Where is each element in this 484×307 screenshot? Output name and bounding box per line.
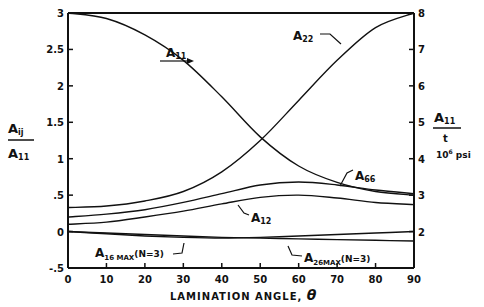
svg-text:106 psi: 106 psi bbox=[436, 148, 471, 160]
left-tick-label: .5 bbox=[53, 190, 64, 201]
lamination-angle-chart: 0102030405060708090 -.50.511.522.53 2345… bbox=[0, 0, 484, 307]
svg-text:A11: A11 bbox=[434, 110, 456, 126]
x-tick-label: 30 bbox=[176, 274, 190, 285]
right-tick-label: 6 bbox=[418, 81, 425, 92]
svg-text:A11: A11 bbox=[166, 46, 187, 61]
x-tick-label: 40 bbox=[215, 274, 229, 285]
left-tick-label: 2 bbox=[57, 81, 64, 92]
plot-frame bbox=[68, 13, 414, 268]
x-tick-label: 70 bbox=[330, 274, 344, 285]
curve-a11 bbox=[68, 13, 414, 195]
right-axis-ticks: 2345678 bbox=[409, 8, 425, 238]
right-tick-label: 7 bbox=[418, 44, 425, 55]
right-axis-label: A11 t 106 psi bbox=[433, 110, 471, 160]
annotation-a16: A16 MAX(N=3) bbox=[95, 243, 184, 262]
right-tick-label: 3 bbox=[418, 190, 425, 201]
svg-text:A26MAX(N=3): A26MAX(N=3) bbox=[304, 251, 370, 267]
right-tick-label: 4 bbox=[418, 154, 425, 165]
svg-text:A66: A66 bbox=[355, 169, 376, 184]
x-tick-label: 80 bbox=[369, 274, 383, 285]
left-tick-label: 1 bbox=[57, 154, 64, 165]
left-axis-label: Aij A11 bbox=[8, 121, 34, 162]
left-tick-label: -.5 bbox=[49, 263, 64, 274]
x-tick-label: 50 bbox=[253, 274, 267, 285]
annotation-a22: A22 bbox=[293, 29, 341, 44]
right-tick-label: 8 bbox=[418, 8, 425, 19]
svg-text:Aij: Aij bbox=[8, 121, 24, 137]
left-tick-label: 2.5 bbox=[46, 44, 64, 55]
svg-text:A12: A12 bbox=[251, 211, 271, 226]
x-tick-label: 60 bbox=[292, 274, 306, 285]
x-tick-label: 90 bbox=[407, 274, 421, 285]
left-tick-label: 3 bbox=[57, 8, 64, 19]
x-tick-label: 20 bbox=[138, 274, 152, 285]
svg-text:A16 MAX(N=3): A16 MAX(N=3) bbox=[95, 246, 164, 262]
curve-a66 bbox=[68, 182, 414, 217]
annotation-a26: A26MAX(N=3) bbox=[288, 246, 370, 267]
x-tick-label: 10 bbox=[99, 274, 113, 285]
svg-text:A22: A22 bbox=[293, 29, 313, 44]
x-axis-label: LAMINATION ANGLE, θ bbox=[170, 287, 317, 303]
annotation-a12: A12 bbox=[238, 205, 271, 226]
annotation-a66: A66 bbox=[340, 169, 376, 186]
right-tick-label: 2 bbox=[418, 227, 425, 238]
x-axis-ticks: 0102030405060708090 bbox=[65, 263, 421, 285]
annotation-a11: A11 bbox=[160, 46, 194, 64]
left-tick-label: 1.5 bbox=[46, 117, 64, 128]
data-curves bbox=[68, 13, 414, 241]
x-tick-label: 0 bbox=[65, 274, 72, 285]
svg-text:A11: A11 bbox=[8, 146, 30, 162]
right-tick-label: 5 bbox=[418, 117, 425, 128]
left-tick-label: 0 bbox=[57, 227, 64, 238]
svg-text:t: t bbox=[443, 133, 448, 144]
